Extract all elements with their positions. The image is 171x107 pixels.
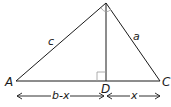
right-angle-marker [97,72,106,81]
side-label-a: a [133,31,140,42]
measure-label-x: x [130,90,139,101]
vertex-label-d: D [101,83,110,95]
vertex-label-a: A [5,76,13,88]
vertex-label-c: C [162,76,170,88]
side-label-c: c [48,36,54,47]
side-c-line [16,3,106,81]
triangle-diagram [0,0,171,107]
measure-label-bx: b-x [51,90,70,101]
